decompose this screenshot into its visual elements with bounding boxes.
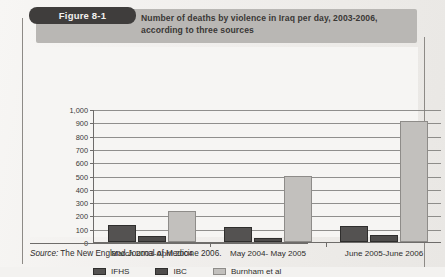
source-divider: [30, 243, 308, 244]
gridline: [94, 190, 441, 191]
y-axis-label: 500: [76, 177, 88, 178]
legend-label: IBC: [173, 267, 187, 276]
y-axis-label: 200: [76, 216, 88, 217]
figure-number-badge: Figure 8-1: [29, 7, 136, 24]
y-axis-tick: [90, 216, 94, 217]
gridline: [94, 230, 441, 231]
y-axis-tick: [90, 230, 94, 231]
source-note: Source: The New England Journal of Medic…: [30, 249, 221, 258]
y-axis-label: 900: [76, 123, 88, 124]
bar-ibc: [370, 235, 398, 242]
chart-legend: IFHSIBCBurnham et al: [93, 265, 423, 277]
page-left-rule: [22, 18, 23, 264]
x-axis-label: June 2005-June 2006: [345, 249, 423, 258]
y-axis-tick: [90, 137, 94, 138]
y-axis-tick: [90, 110, 94, 111]
bar-ibc: [138, 236, 166, 242]
bar-ifhs: [108, 225, 136, 242]
bar-burnham-et-al: [284, 176, 312, 242]
x-axis-tick: [326, 242, 327, 247]
y-axis-tick: [90, 163, 94, 164]
y-axis-label: 400: [76, 190, 88, 191]
bar-ifhs: [224, 227, 252, 242]
x-axis-label: May 2004- May 2005: [230, 249, 306, 258]
chart-panel: 01002003004005006007008009001,000 March …: [30, 47, 418, 237]
legend-label: IFHS: [111, 267, 129, 276]
y-axis-label: 800: [76, 137, 88, 138]
y-axis-label: 1,000: [70, 110, 89, 111]
legend-label: Burnham et al: [231, 267, 281, 276]
source-prefix: Source:: [30, 249, 58, 258]
gridline: [94, 203, 441, 204]
y-axis-tick: [90, 177, 94, 178]
y-axis-tick: [90, 203, 94, 204]
gridline: [94, 163, 441, 164]
y-axis-tick: [90, 190, 94, 191]
figure-number-label: Figure 8-1: [59, 10, 106, 21]
gridline: [94, 150, 441, 151]
source-text: The New England Journal of Medicine 2006…: [60, 249, 221, 258]
bar-burnham-et-al: [168, 211, 196, 242]
legend-swatch-icon: [155, 268, 168, 275]
y-axis-label: 100: [76, 230, 88, 231]
legend-item-ibc: IBC: [155, 267, 187, 276]
gridline: [94, 110, 441, 111]
gridline: [94, 123, 441, 124]
gridline: [94, 216, 441, 217]
y-axis-tick: [90, 150, 94, 151]
plot-area: 01002003004005006007008009001,000 March …: [93, 110, 441, 243]
bar-ifhs: [340, 226, 368, 242]
y-axis-label: 600: [76, 163, 88, 164]
y-axis-label: 700: [76, 150, 88, 151]
legend-swatch-icon: [213, 268, 226, 275]
gridline: [94, 137, 441, 138]
figure-title: Number of deaths by violence in Iraq per…: [141, 12, 417, 36]
bar-burnham-et-al: [400, 121, 428, 242]
legend-swatch-icon: [93, 268, 106, 275]
gridline: [94, 177, 441, 178]
legend-item-ifhs: IFHS: [93, 267, 129, 276]
bar-ibc: [254, 238, 282, 242]
legend-item-burnham-et-al: Burnham et al: [213, 267, 281, 276]
y-axis-tick: [90, 123, 94, 124]
y-axis-label: 300: [76, 203, 88, 204]
